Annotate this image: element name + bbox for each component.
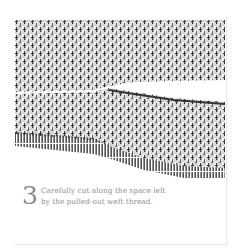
fabric-illustration (14, 18, 225, 178)
step-caption: 3 Carefully cut along the space left by … (22, 183, 192, 208)
step-text-line-2: by the pulled-out weft thread. (41, 196, 166, 207)
step-text: Carefully cut along the space left by th… (41, 183, 166, 207)
fabric-upper (15, 20, 225, 92)
step-number: 3 (22, 184, 38, 208)
step-text-line-1: Carefully cut along the space left (41, 185, 166, 196)
